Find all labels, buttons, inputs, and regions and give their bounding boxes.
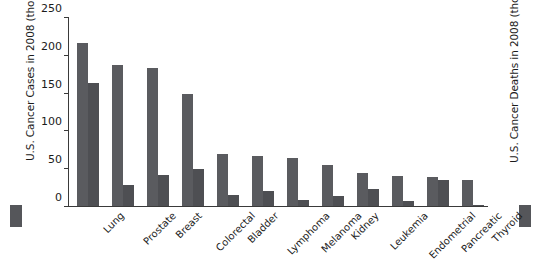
bar-deaths <box>88 83 99 206</box>
bar-deaths <box>368 189 379 206</box>
bar-chart: U.S. Cancer Cases in 2008 (thousands) U.… <box>0 0 546 260</box>
bar-deaths <box>298 200 309 206</box>
y-axis-tick-label: 50 <box>32 154 62 166</box>
bar-cases <box>77 43 88 206</box>
y-axis-line <box>68 17 69 206</box>
x-axis-category-label: Leukemia <box>388 210 430 252</box>
bar-deaths <box>263 191 274 206</box>
y-axis-tick-mark <box>64 168 68 169</box>
x-axis-category-label: Breast <box>173 210 204 241</box>
bar-group <box>427 17 449 206</box>
y-axis-tick-mark <box>64 206 68 207</box>
bar-deaths <box>193 169 204 206</box>
bar-deaths <box>333 196 344 206</box>
bar-group <box>462 17 484 206</box>
y-axis-tick-label: 0 <box>32 192 62 204</box>
bar-cases <box>217 154 228 206</box>
bar-group <box>147 17 169 206</box>
y-axis-tick-mark <box>64 17 68 18</box>
bar-deaths <box>403 201 414 206</box>
bar-cases <box>322 165 333 206</box>
bar-group <box>392 17 414 206</box>
legend-swatch-cases <box>10 205 22 227</box>
bar-group <box>357 17 379 206</box>
bar-group <box>252 17 274 206</box>
bar-cases <box>147 68 158 206</box>
bar-group <box>77 17 99 206</box>
bar-deaths <box>158 175 169 206</box>
bar-deaths <box>228 195 239 206</box>
x-axis-category-label: Lung <box>101 210 126 235</box>
bar-deaths <box>438 180 449 206</box>
y-axis-tick-mark <box>64 130 68 131</box>
bar-group <box>182 17 204 206</box>
bar-deaths <box>123 185 134 206</box>
bar-cases <box>252 156 263 206</box>
bar-group <box>287 17 309 206</box>
bar-cases <box>392 176 403 206</box>
bar-cases <box>287 158 298 206</box>
bar-deaths <box>473 205 484 207</box>
bar-cases <box>182 94 193 206</box>
y-axis-tick-mark <box>64 93 68 94</box>
bar-cases <box>462 180 473 206</box>
plot-area: 050100150200250 LungProstateBreastColore… <box>68 17 488 206</box>
y-axis-tick-mark <box>64 55 68 56</box>
bar-cases <box>112 65 123 206</box>
bar-cases <box>427 177 438 206</box>
y-axis-tick-label: 200 <box>32 41 62 53</box>
bar-group <box>322 17 344 206</box>
y-axis-tick-label: 250 <box>32 3 62 15</box>
bar-cases <box>357 173 368 206</box>
bar-group <box>112 17 134 206</box>
bar-group <box>217 17 239 206</box>
y-axis-tick-label: 150 <box>32 79 62 91</box>
y-axis-tick-label: 100 <box>32 116 62 128</box>
x-axis-line <box>68 206 488 207</box>
y-axis-title-right: U.S. Cancer Deaths in 2008 (thousands) <box>508 0 520 163</box>
x-axis-category-label: Prostate <box>141 210 178 247</box>
